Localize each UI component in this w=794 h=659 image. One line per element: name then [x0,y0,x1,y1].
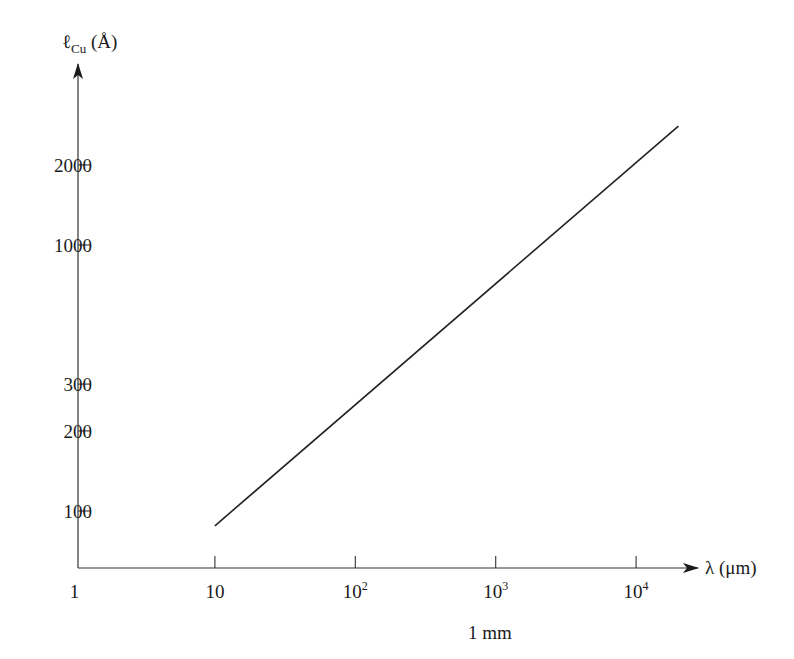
y-tick-label: 100 [22,502,92,521]
chart-canvas [0,0,794,659]
x-tick-label: 102 [325,582,385,601]
x-unit: (μm) [719,557,757,578]
x-tick-label: 103 [466,582,526,601]
data-line [215,126,679,526]
y-tick-label: 200 [22,422,92,441]
x-axis-label: λ (μm) [705,558,757,577]
x-tick-label: 1 [45,582,105,601]
y-symbol: ℓ [62,31,71,52]
x-axis-ticks [215,556,636,568]
y-axis-label: ℓCu (Å) [62,32,117,51]
y-tick-label: 300 [22,375,92,394]
y-subscript: Cu [71,41,86,56]
y-tick-label: 1000 [22,236,92,255]
x-tick-label: 104 [606,582,666,601]
annotation-1mm: 1 mm [468,623,512,642]
y-unit: (Å) [91,31,117,52]
y-tick-label: 2000 [22,156,92,175]
x-tick-label: 10 [185,582,245,601]
y-axis-ticks [78,165,90,511]
x-symbol: λ [705,557,714,578]
